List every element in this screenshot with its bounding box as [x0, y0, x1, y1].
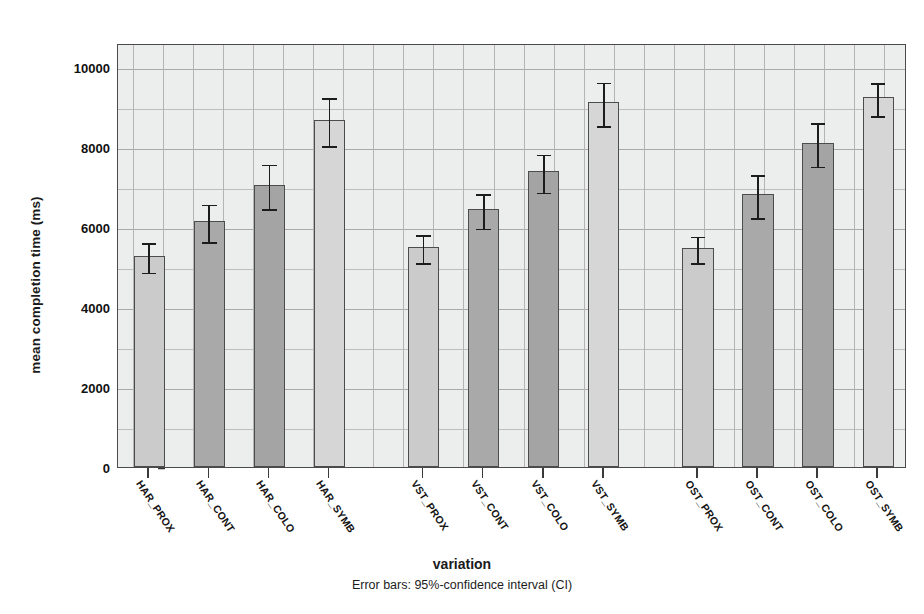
- x-axis-category-label: OST_CONT: [743, 478, 786, 533]
- x-axis-category-label: HAR_CONT: [194, 478, 237, 534]
- bar: [863, 97, 894, 467]
- error-bar-cap-upper: [322, 98, 336, 100]
- bar: [742, 194, 773, 467]
- error-bar-cap-lower: [262, 209, 276, 211]
- error-bar-cap-lower: [597, 126, 611, 128]
- x-axis-tick-mark: [422, 468, 424, 478]
- error-bar-stem: [148, 243, 150, 273]
- error-bar-cap-lower: [416, 263, 430, 265]
- error-bar-cap-upper: [476, 194, 490, 196]
- x-axis-category-label: VST_SYMB: [589, 478, 631, 533]
- y-axis-tick-label: 10000: [48, 61, 110, 76]
- y-axis-tick-label: 0: [48, 461, 110, 476]
- error-bar-stem: [269, 165, 271, 209]
- x-axis-category-label: OST_COLO: [803, 478, 846, 534]
- x-axis-category-labels: HAR_PROXHAR_CONTHAR_COLOHAR_SYMBVST_PROX…: [117, 478, 906, 548]
- error-bar-cap-upper: [871, 83, 885, 85]
- bar-series: [118, 45, 905, 467]
- x-axis-category-label: HAR_COLO: [254, 478, 298, 535]
- error-bar-cap-upper: [142, 243, 156, 245]
- error-bar-cap-upper: [537, 155, 551, 157]
- error-bar-cap-lower: [751, 218, 765, 220]
- bar: [468, 209, 499, 467]
- bar: [802, 143, 833, 467]
- x-axis-category-label: HAR_SYMB: [315, 478, 359, 535]
- error-bar-cap-upper: [416, 235, 430, 237]
- error-bar-cap-lower: [871, 116, 885, 118]
- x-axis-title: variation: [0, 556, 924, 572]
- plot-area: [117, 44, 906, 468]
- error-bar-stem: [757, 175, 759, 218]
- x-axis-tick-mark: [696, 468, 698, 478]
- x-axis-category-label: HAR_PROX: [134, 478, 177, 534]
- error-bar-cap-upper: [597, 83, 611, 85]
- bar: [134, 256, 165, 467]
- bar: [194, 221, 225, 467]
- x-axis-category-label: VST_PROX: [409, 478, 451, 532]
- error-bar-cap-lower: [537, 193, 551, 195]
- error-bar-cap-upper: [811, 123, 825, 125]
- y-axis-tick-label: 4000: [48, 301, 110, 316]
- error-bar-cap-upper: [691, 237, 705, 239]
- error-bar-cap-lower: [202, 242, 216, 244]
- chart-figure: mean completion time (ms) 02000400060008…: [0, 0, 924, 614]
- error-bar-stem: [543, 155, 545, 193]
- error-bar-stem: [603, 83, 605, 126]
- bar: [682, 248, 713, 467]
- bar: [528, 171, 559, 467]
- x-axis-category-label: VST_CONT: [469, 478, 511, 532]
- x-axis-tick-mark: [268, 468, 270, 478]
- error-bar-stem: [208, 205, 210, 242]
- bar: [254, 185, 285, 467]
- y-axis-tick-label: 8000: [48, 141, 110, 156]
- bar: [314, 120, 345, 467]
- error-bar-stem: [423, 235, 425, 263]
- x-axis-tick-mark: [602, 468, 604, 478]
- y-axis-tick-label: 6000: [48, 221, 110, 236]
- error-bar-stem: [697, 237, 699, 263]
- bar: [408, 247, 439, 467]
- x-axis-category-label: OST_SYMB: [863, 478, 906, 534]
- error-bar-cap-lower: [691, 263, 705, 265]
- error-bar-stem: [817, 123, 819, 167]
- bar: [588, 102, 619, 467]
- x-axis-tick-mark: [816, 468, 818, 478]
- error-bar-cap-lower: [322, 146, 336, 148]
- error-bar-cap-upper: [262, 165, 276, 167]
- x-axis-tick-mark: [756, 468, 758, 478]
- x-axis-tick-mark: [542, 468, 544, 478]
- error-bar-cap-upper: [202, 205, 216, 207]
- error-bar-cap-lower: [811, 167, 825, 169]
- error-bar-stem: [483, 194, 485, 229]
- error-bar-cap-lower: [142, 273, 156, 275]
- x-axis-category-label: VST_COLO: [529, 478, 571, 533]
- error-bar-stem: [877, 83, 879, 115]
- x-axis-tick-mark: [876, 468, 878, 478]
- error-bar-cap-lower: [476, 229, 490, 231]
- x-axis-tick-mark: [147, 468, 149, 478]
- error-bar-stem: [329, 98, 331, 146]
- x-axis-tick-mark: [482, 468, 484, 478]
- y-axis-tick-label: 2000: [48, 381, 110, 396]
- y-axis-title: mean completion time (ms): [22, 120, 48, 450]
- error-bar-note: Error bars: 95%-confidence interval (CI): [0, 578, 924, 592]
- x-axis-tick-mark: [328, 468, 330, 478]
- y-axis-tick-labels: 0200040006000800010000: [48, 0, 110, 614]
- error-bar-cap-upper: [751, 175, 765, 177]
- x-axis-tick-mark: [208, 468, 210, 478]
- x-axis-category-label: OST_PROX: [683, 478, 726, 533]
